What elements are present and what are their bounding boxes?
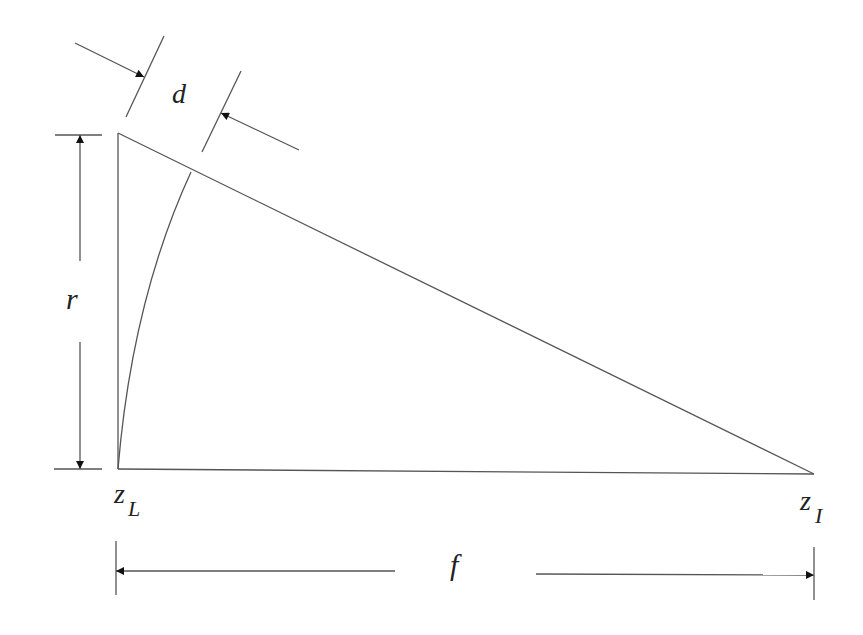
label-r: r (66, 282, 78, 316)
label-zL: z (114, 478, 125, 510)
label-zI-subscript: I (815, 503, 822, 529)
label-zL-subscript: L (128, 496, 140, 522)
lens-geometry-diagram: d r f z L z I (0, 0, 863, 635)
arc-curve (118, 172, 191, 469)
diagram-canvas (0, 0, 863, 635)
base-side (118, 469, 814, 474)
d-arrow-right (221, 113, 299, 150)
d-arrow-left (75, 43, 144, 77)
d-extension-left (126, 36, 164, 117)
label-zI: z (800, 485, 811, 517)
hypotenuse (118, 133, 814, 474)
label-f: f (450, 548, 458, 582)
f-arrow-right (536, 574, 814, 575)
d-extension-right (202, 71, 241, 152)
label-d: d (172, 78, 186, 110)
